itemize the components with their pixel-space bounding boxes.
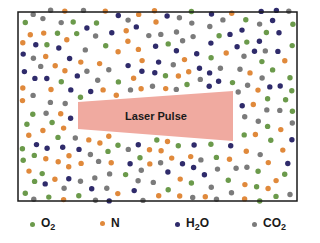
molecule-n-dot xyxy=(43,54,48,59)
molecule-o2-dot xyxy=(290,43,295,48)
molecule-co2-dot xyxy=(88,152,93,157)
molecule-co2-dot xyxy=(220,17,225,22)
molecule-n-dot xyxy=(78,161,83,166)
molecule-n-dot xyxy=(273,178,278,183)
molecule-h2o-dot xyxy=(216,79,221,84)
molecule-n-dot xyxy=(139,58,144,63)
molecule-h2o-dot xyxy=(68,116,73,121)
molecule-n-dot xyxy=(125,39,130,44)
molecule-h2o-dot xyxy=(89,186,94,191)
legend-label: O2 xyxy=(41,216,55,232)
molecule-n-dot xyxy=(115,191,120,196)
molecule-n-dot xyxy=(247,70,252,75)
molecule-n-dot xyxy=(103,8,108,13)
molecule-n-dot xyxy=(56,159,61,164)
molecule-h2o-dot xyxy=(44,76,49,81)
molecule-h2o-dot xyxy=(67,56,72,61)
molecule-h2o-dot xyxy=(22,69,27,74)
legend-dot-icon xyxy=(30,222,35,227)
molecule-co2-dot xyxy=(257,21,262,26)
molecule-o2-dot xyxy=(214,155,219,160)
molecule-h2o-dot xyxy=(66,176,71,181)
molecule-h2o-dot xyxy=(156,59,161,64)
molecule-o2-dot xyxy=(264,30,269,35)
molecule-co2-dot xyxy=(106,67,111,72)
molecule-o2-dot xyxy=(94,20,99,25)
molecule-o2-dot xyxy=(189,180,194,185)
molecule-n-dot xyxy=(251,102,256,107)
molecule-co2-dot xyxy=(158,160,163,165)
molecule-co2-dot xyxy=(290,120,295,125)
laser-pulse-label: Laser Pulse xyxy=(125,110,187,122)
molecule-h2o-dot xyxy=(164,13,169,18)
molecule-o2-dot xyxy=(23,191,28,196)
molecule-n-dot xyxy=(153,19,158,24)
molecule-o2-dot xyxy=(289,88,294,93)
molecule-n-dot xyxy=(156,193,161,198)
molecule-n-dot xyxy=(177,193,182,198)
legend-item-n: N xyxy=(100,216,120,230)
molecule-o2-dot xyxy=(115,143,120,148)
molecule-n-dot xyxy=(124,28,129,33)
molecule-h2o-dot xyxy=(252,49,257,54)
molecule-o2-dot xyxy=(230,80,235,85)
molecule-co2-dot xyxy=(96,159,101,164)
molecule-n-dot xyxy=(186,69,191,74)
molecule-o2-dot xyxy=(208,142,213,147)
molecule-n-dot xyxy=(176,73,181,78)
molecule-h2o-dot xyxy=(227,32,232,37)
molecule-o2-dot xyxy=(270,67,275,72)
molecule-o2-dot xyxy=(244,39,249,44)
molecule-o2-dot xyxy=(268,138,273,143)
molecule-n-dot xyxy=(61,125,66,130)
molecule-n-dot xyxy=(66,164,71,169)
molecule-h2o-dot xyxy=(32,76,37,81)
molecule-o2-dot xyxy=(259,59,264,64)
molecule-h2o-dot xyxy=(60,145,65,150)
molecule-co2-dot xyxy=(177,15,182,20)
molecule-o2-dot xyxy=(255,169,260,174)
molecule-o2-dot xyxy=(24,122,29,127)
molecule-n-dot xyxy=(41,30,46,35)
molecule-n-dot xyxy=(58,111,63,116)
molecule-h2o-dot xyxy=(33,42,38,47)
molecule-co2-dot xyxy=(61,186,66,191)
molecule-h2o-dot xyxy=(174,48,179,53)
legend-item-h2o: H2O xyxy=(175,216,209,232)
molecule-co2-dot xyxy=(233,166,238,171)
molecule-co2-dot xyxy=(236,89,241,94)
molecule-co2-dot xyxy=(259,75,264,80)
molecule-h2o-dot xyxy=(136,142,141,147)
molecule-n-dot xyxy=(136,47,141,52)
molecule-co2-dot xyxy=(40,16,45,21)
molecule-co2-dot xyxy=(146,33,151,38)
molecule-co2-dot xyxy=(92,175,97,180)
molecule-o2-dot xyxy=(20,146,25,151)
molecule-co2-dot xyxy=(286,9,291,14)
legend-dot-icon xyxy=(252,222,257,227)
molecule-co2-dot xyxy=(174,29,179,34)
molecule-n-dot xyxy=(43,156,48,161)
molecule-co2-dot xyxy=(59,20,64,25)
molecule-co2-dot xyxy=(31,56,36,61)
molecule-h2o-dot xyxy=(208,40,213,45)
legend-item-o2: O2 xyxy=(30,216,55,232)
molecule-co2-dot xyxy=(207,24,212,29)
molecule-n-dot xyxy=(115,49,120,54)
molecule-n-dot xyxy=(97,140,102,145)
molecule-co2-dot xyxy=(256,119,261,124)
molecule-n-dot xyxy=(147,161,152,166)
molecule-co2-dot xyxy=(30,93,35,98)
molecule-n-dot xyxy=(147,147,152,152)
molecule-n-dot xyxy=(158,148,163,153)
molecule-h2o-dot xyxy=(165,169,170,174)
molecule-n-dot xyxy=(40,128,45,133)
molecule-co2-dot xyxy=(135,178,140,183)
molecule-co2-dot xyxy=(48,100,53,105)
molecule-o2-dot xyxy=(30,112,35,117)
legend-label: CO2 xyxy=(263,216,286,232)
molecule-co2-dot xyxy=(258,152,263,157)
molecule-h2o-dot xyxy=(228,143,233,148)
molecule-co2-dot xyxy=(158,32,163,37)
molecule-co2-dot xyxy=(263,48,268,53)
